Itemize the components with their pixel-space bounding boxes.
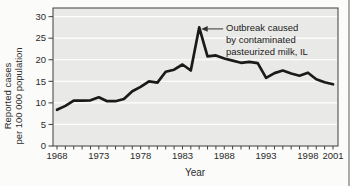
x-tick-label: 1998	[297, 150, 318, 161]
annotation-line1: Outbreak caused	[226, 22, 326, 34]
y-tick-label: 0	[41, 140, 46, 151]
x-tick-label: 1968	[46, 150, 67, 161]
x-tick-label: 1993	[256, 150, 277, 161]
y-tick-label: 25	[35, 32, 46, 43]
x-tick-label: 1973	[88, 150, 109, 161]
figure: 0510152025301968197319781983198819931998…	[0, 0, 350, 186]
y-tick-label: 20	[35, 54, 46, 65]
x-tick-label: 2001	[322, 150, 343, 161]
x-axis-title: Year	[155, 167, 235, 178]
y-tick-label: 10	[35, 97, 46, 108]
outbreak-annotation: Outbreak caused by contaminated pasteuri…	[226, 22, 326, 58]
y-axis-label-line1: Reported cases	[2, 31, 13, 161]
x-tick-label: 1978	[130, 150, 151, 161]
y-axis-label: Reported cases per 100 000 population	[2, 31, 26, 161]
x-tick-label: 1988	[214, 150, 235, 161]
y-tick-label: 30	[35, 11, 46, 22]
y-axis-label-line2: per 100 000 population	[13, 31, 24, 161]
annotation-line2: by contaminated	[226, 34, 326, 46]
y-tick-label: 5	[41, 119, 46, 130]
annotation-line3: pasteurized milk, IL	[226, 46, 326, 58]
x-tick-label: 1983	[172, 150, 193, 161]
y-tick-label: 15	[35, 76, 46, 87]
